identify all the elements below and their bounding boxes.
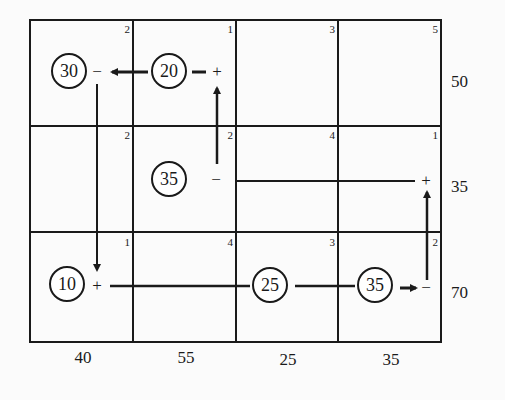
demand-col1: 40 — [53, 348, 113, 368]
allocation-r3c1: 10 — [49, 266, 85, 302]
supply-row2: 35 — [451, 177, 468, 197]
cost-r2c4: 1 — [418, 129, 438, 141]
demand-col2: 55 — [156, 348, 216, 368]
demand-col3: 25 — [258, 350, 318, 370]
sign-minus-r2c2: − — [208, 171, 224, 189]
cost-r2c2: 2 — [213, 129, 233, 141]
cost-r2c1: 2 — [110, 129, 130, 141]
cost-r3c3: 3 — [315, 236, 335, 248]
stepping-stone-path — [97, 72, 427, 288]
cost-r3c4: 2 — [418, 236, 438, 248]
cost-r1c2: 1 — [213, 23, 233, 35]
sign-plus-r2c4: + — [418, 172, 434, 190]
allocation-r3c4: 35 — [357, 267, 393, 303]
cost-r3c1: 1 — [110, 236, 130, 248]
allocation-r3c3: 25 — [252, 267, 288, 303]
demand-col4: 35 — [361, 350, 421, 370]
sign-minus-r3c4: − — [418, 279, 434, 297]
cost-r1c3: 3 — [315, 23, 335, 35]
allocation-r2c2: 35 — [151, 161, 187, 197]
cost-r2c3: 4 — [315, 129, 335, 141]
cost-r1c4: 5 — [418, 23, 438, 35]
supply-row3: 70 — [451, 283, 468, 303]
allocation-r1c2: 20 — [151, 53, 187, 89]
sign-plus-r1c2: + — [209, 63, 225, 81]
cost-r3c2: 4 — [213, 236, 233, 248]
supply-row1: 50 — [451, 72, 468, 92]
sign-plus-r3c1: + — [89, 277, 105, 295]
allocation-r1c1: 30 — [51, 53, 87, 89]
cost-r1c1: 2 — [110, 23, 130, 35]
sign-minus-r1c1: − — [89, 63, 105, 81]
